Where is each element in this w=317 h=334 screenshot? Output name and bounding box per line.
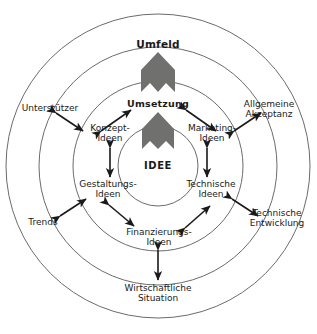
node-technische-ideen-line2: Ideen	[170, 189, 252, 199]
node-konzept-ideen: Konzept- Ideen	[72, 123, 148, 144]
node-allgemeine-akzeptanz-line2: Akzeptanz	[228, 109, 310, 119]
node-wirtschaftliche-situation: Wirtschaftliche Situation	[103, 283, 213, 304]
center-label-text: IDEE	[128, 160, 188, 172]
arrow-trends-gestaltungs	[60, 199, 86, 216]
outer-ring-title: Umfeld	[108, 38, 208, 50]
node-konzept-ideen-line2: Ideen	[72, 133, 148, 143]
node-unterstuetzer-line1: Unterstützer	[12, 103, 88, 113]
node-technische-ideen: Technische Ideen	[170, 179, 252, 200]
node-technische-entwicklung-line2: Entwicklung	[236, 218, 317, 228]
arrow-gestaltungs-finanzierungs	[109, 205, 134, 226]
node-wirtschaftliche-situation-line1: Wirtschaftliche	[103, 283, 213, 293]
node-finanzierungs-ideen-line1: Finanzierungs-	[112, 227, 206, 237]
node-finanzierungs-ideen: Finanzierungs- Ideen	[112, 227, 206, 248]
node-allgemeine-akzeptanz-line1: Allgemeine	[228, 99, 310, 109]
outer-ring-title-text: Umfeld	[108, 38, 208, 50]
chevron-outer-icon	[141, 52, 175, 92]
middle-ring-title-text: Umsetzung	[108, 99, 208, 110]
middle-ring-title: Umsetzung	[108, 99, 208, 110]
node-technische-ideen-line1: Technische	[170, 179, 252, 189]
node-marketing-ideen-line2: Ideen	[172, 133, 252, 143]
node-trends-line1: Trends	[12, 217, 74, 227]
node-allgemeine-akzeptanz: Allgemeine Akzeptanz	[228, 99, 310, 120]
node-gestaltungs-ideen: Gestaltungs- Ideen	[66, 179, 150, 200]
node-gestaltungs-ideen-line1: Gestaltungs-	[66, 179, 150, 189]
node-gestaltungs-ideen-line2: Ideen	[66, 189, 150, 199]
node-konzept-ideen-line1: Konzept-	[72, 123, 148, 133]
arrow-finanzierungs-technische	[185, 206, 210, 228]
node-marketing-ideen: Marketing- Ideen	[172, 123, 252, 144]
node-technische-entwicklung-line1: Technische	[236, 208, 317, 218]
node-technische-entwicklung: Technische Entwicklung	[236, 208, 317, 229]
node-marketing-ideen-line1: Marketing-	[172, 123, 252, 133]
diagram-root: Umfeld Umsetzung IDEE Konzept- Ideen Mar…	[0, 0, 317, 334]
node-wirtschaftliche-situation-line2: Situation	[103, 293, 213, 303]
center-label: IDEE	[128, 160, 188, 172]
node-finanzierungs-ideen-line2: Ideen	[112, 237, 206, 247]
node-unterstuetzer: Unterstützer	[12, 103, 88, 113]
node-trends: Trends	[12, 217, 74, 227]
